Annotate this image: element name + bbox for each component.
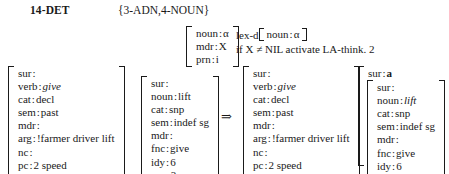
lexd-operation-line: lex-dnoun:α — [236, 28, 375, 43]
proplet-row: pc:2 speed — [18, 159, 115, 172]
proplet-row: prn:3 — [151, 169, 209, 174]
input-verb-proplet: sur:verb:givecat:declsem:pastmdr:arg:!fa… — [8, 66, 125, 174]
proplet-row: mdr: — [151, 129, 209, 142]
output-verb-rows: sur:verb:givecat:declsem:pastmdr:arg:!fa… — [249, 66, 354, 174]
proplet-attribute: prn — [151, 169, 166, 174]
output-surface-line: sur:a — [367, 67, 445, 80]
pattern-matrix: noun:αmdr:Xprn:i — [186, 26, 239, 67]
output-surface-attr: sur — [368, 67, 381, 79]
proplet-attribute: cat — [253, 93, 266, 105]
proplet-separator: : — [36, 119, 41, 131]
input-verb-rows: sur:verb:givecat:declsem:pastmdr:arg:!fa… — [14, 66, 119, 174]
proplet-separator: : — [169, 129, 174, 141]
proplet-attribute: cat — [18, 93, 31, 105]
proplet-row: cat:decl — [18, 93, 115, 106]
proplet-row: idy:6 — [377, 160, 435, 173]
proplet-row: prn:i — [196, 53, 229, 66]
proplet-value: 3 — [38, 172, 44, 174]
proplet-attribute: verb — [18, 80, 38, 92]
proplet-row: sem:past — [253, 106, 350, 119]
proplet-row: noun:lift — [377, 94, 435, 107]
proplet-row: sem:past — [18, 106, 115, 119]
output-verb-proplet: sur:verb:givecat:declsem:pastmdr:arg:!fa… — [243, 66, 360, 174]
proplet-value: snp — [395, 107, 410, 119]
proplet-row: prn:3 — [18, 172, 115, 174]
proplet-separator: : — [28, 146, 33, 158]
proplet-separator: : — [31, 67, 36, 79]
proplet-value: 2 speed — [268, 159, 301, 171]
proplet-row: sem:indef sg — [377, 120, 435, 133]
proplet-attribute: prn — [196, 53, 211, 65]
bracket-right-icon — [302, 28, 307, 41]
proplet-attribute: sur — [253, 67, 266, 79]
proplet-attribute: idy — [151, 156, 165, 168]
proplet-attribute: sur — [18, 67, 31, 79]
proplet-value: lift — [178, 90, 191, 102]
proplet-row: mdr: — [18, 119, 115, 132]
operations-block: lex-dnoun:α if X ≠ NIL activate LA-think… — [236, 28, 375, 56]
proplet-attribute: fnc — [377, 147, 391, 159]
proplet-value: !farmer driver lift — [37, 132, 115, 144]
lexd-value: α — [294, 28, 300, 40]
proplet-value: 3 — [171, 169, 177, 174]
proplet-attribute: arg — [253, 132, 267, 144]
proplet-value: X — [219, 40, 227, 52]
proplet-value: decl — [36, 93, 54, 105]
proplet-attribute: mdr — [196, 40, 214, 52]
proplet-attribute: cat — [377, 107, 390, 119]
proplet-attribute: prn — [377, 173, 392, 174]
proplet-separator: : — [266, 67, 271, 79]
proplet-attribute: nc — [253, 146, 263, 158]
proplet-row: arg:!farmer driver lift — [18, 132, 115, 145]
proplet-row: arg:!farmer driver lift — [253, 132, 350, 145]
proplet-value: decl — [271, 93, 289, 105]
proplet-value: 3 — [397, 173, 403, 174]
proplet-row: noun:α — [196, 27, 229, 40]
proplet-value: give — [278, 80, 296, 92]
proplet-row: mdr:X — [196, 40, 229, 53]
rule-name: 14-DET — [30, 4, 70, 16]
proplet-value: i — [216, 53, 219, 65]
proplet-attribute: sem — [253, 106, 271, 118]
proplet-value: !farmer driver lift — [272, 132, 350, 144]
proplet-row: mdr: — [253, 119, 350, 132]
proplet-value: 6 — [396, 160, 402, 172]
proplet-attribute: sem — [151, 116, 169, 128]
proplet-row: noun:lift — [151, 90, 209, 103]
proplet-value: α — [223, 27, 229, 39]
proplet-row: fnc:give — [151, 142, 209, 155]
proplet-value: give — [170, 142, 189, 154]
lexd-attr: noun — [267, 28, 289, 40]
proplet-row: cat:snp — [151, 103, 209, 116]
derivation-arrow-icon: ⇒ — [221, 110, 232, 123]
rule-header: 14-DET {3-ADN,4-NOUN} — [0, 4, 449, 20]
proplet-value: past — [276, 106, 294, 118]
proplet-row: sur: — [151, 77, 209, 90]
output-surface-value: a — [387, 67, 393, 79]
proplet-row: verb:give — [18, 80, 115, 93]
proplet-attribute: mdr — [18, 119, 36, 131]
input-noun-proplet: sur:noun:liftcat:snpsem:indef sgmdr:fnc:… — [141, 76, 219, 174]
rule-package-set: {3-ADN,4-NOUN} — [118, 4, 209, 16]
proplet-row: mdr: — [377, 133, 435, 146]
bracket-right-icon — [119, 66, 125, 174]
proplet-separator: : — [164, 77, 169, 89]
proplet-attribute: noun — [377, 94, 399, 106]
proplet-value: give — [43, 80, 61, 92]
condition-line: if X ≠ NIL activate LA-think. 2 — [236, 43, 375, 57]
proplet-row: prn:3 — [253, 172, 350, 174]
proplet-attribute: sem — [377, 120, 395, 132]
output-noun-proplet: sur:noun:liftcat:snpsem:indef sgmdr:fnc:… — [367, 80, 445, 174]
proplet-row: sur: — [377, 81, 435, 94]
proplet-separator: : — [395, 133, 400, 145]
proplet-attribute: prn — [253, 172, 268, 174]
proplet-attribute: nc — [18, 146, 28, 158]
lexd-matrix-rows: noun:α — [264, 28, 303, 41]
proplet-separator: : — [390, 81, 395, 93]
input-noun-rows: sur:noun:liftcat:snpsem:indef sgmdr:fnc:… — [147, 76, 213, 174]
proplet-attribute: fnc — [151, 142, 165, 154]
proplet-attribute: sur — [377, 81, 390, 93]
proplet-row: cat:snp — [377, 107, 435, 120]
proplet-row: sur: — [18, 67, 115, 80]
proplet-attribute: mdr — [377, 133, 395, 145]
